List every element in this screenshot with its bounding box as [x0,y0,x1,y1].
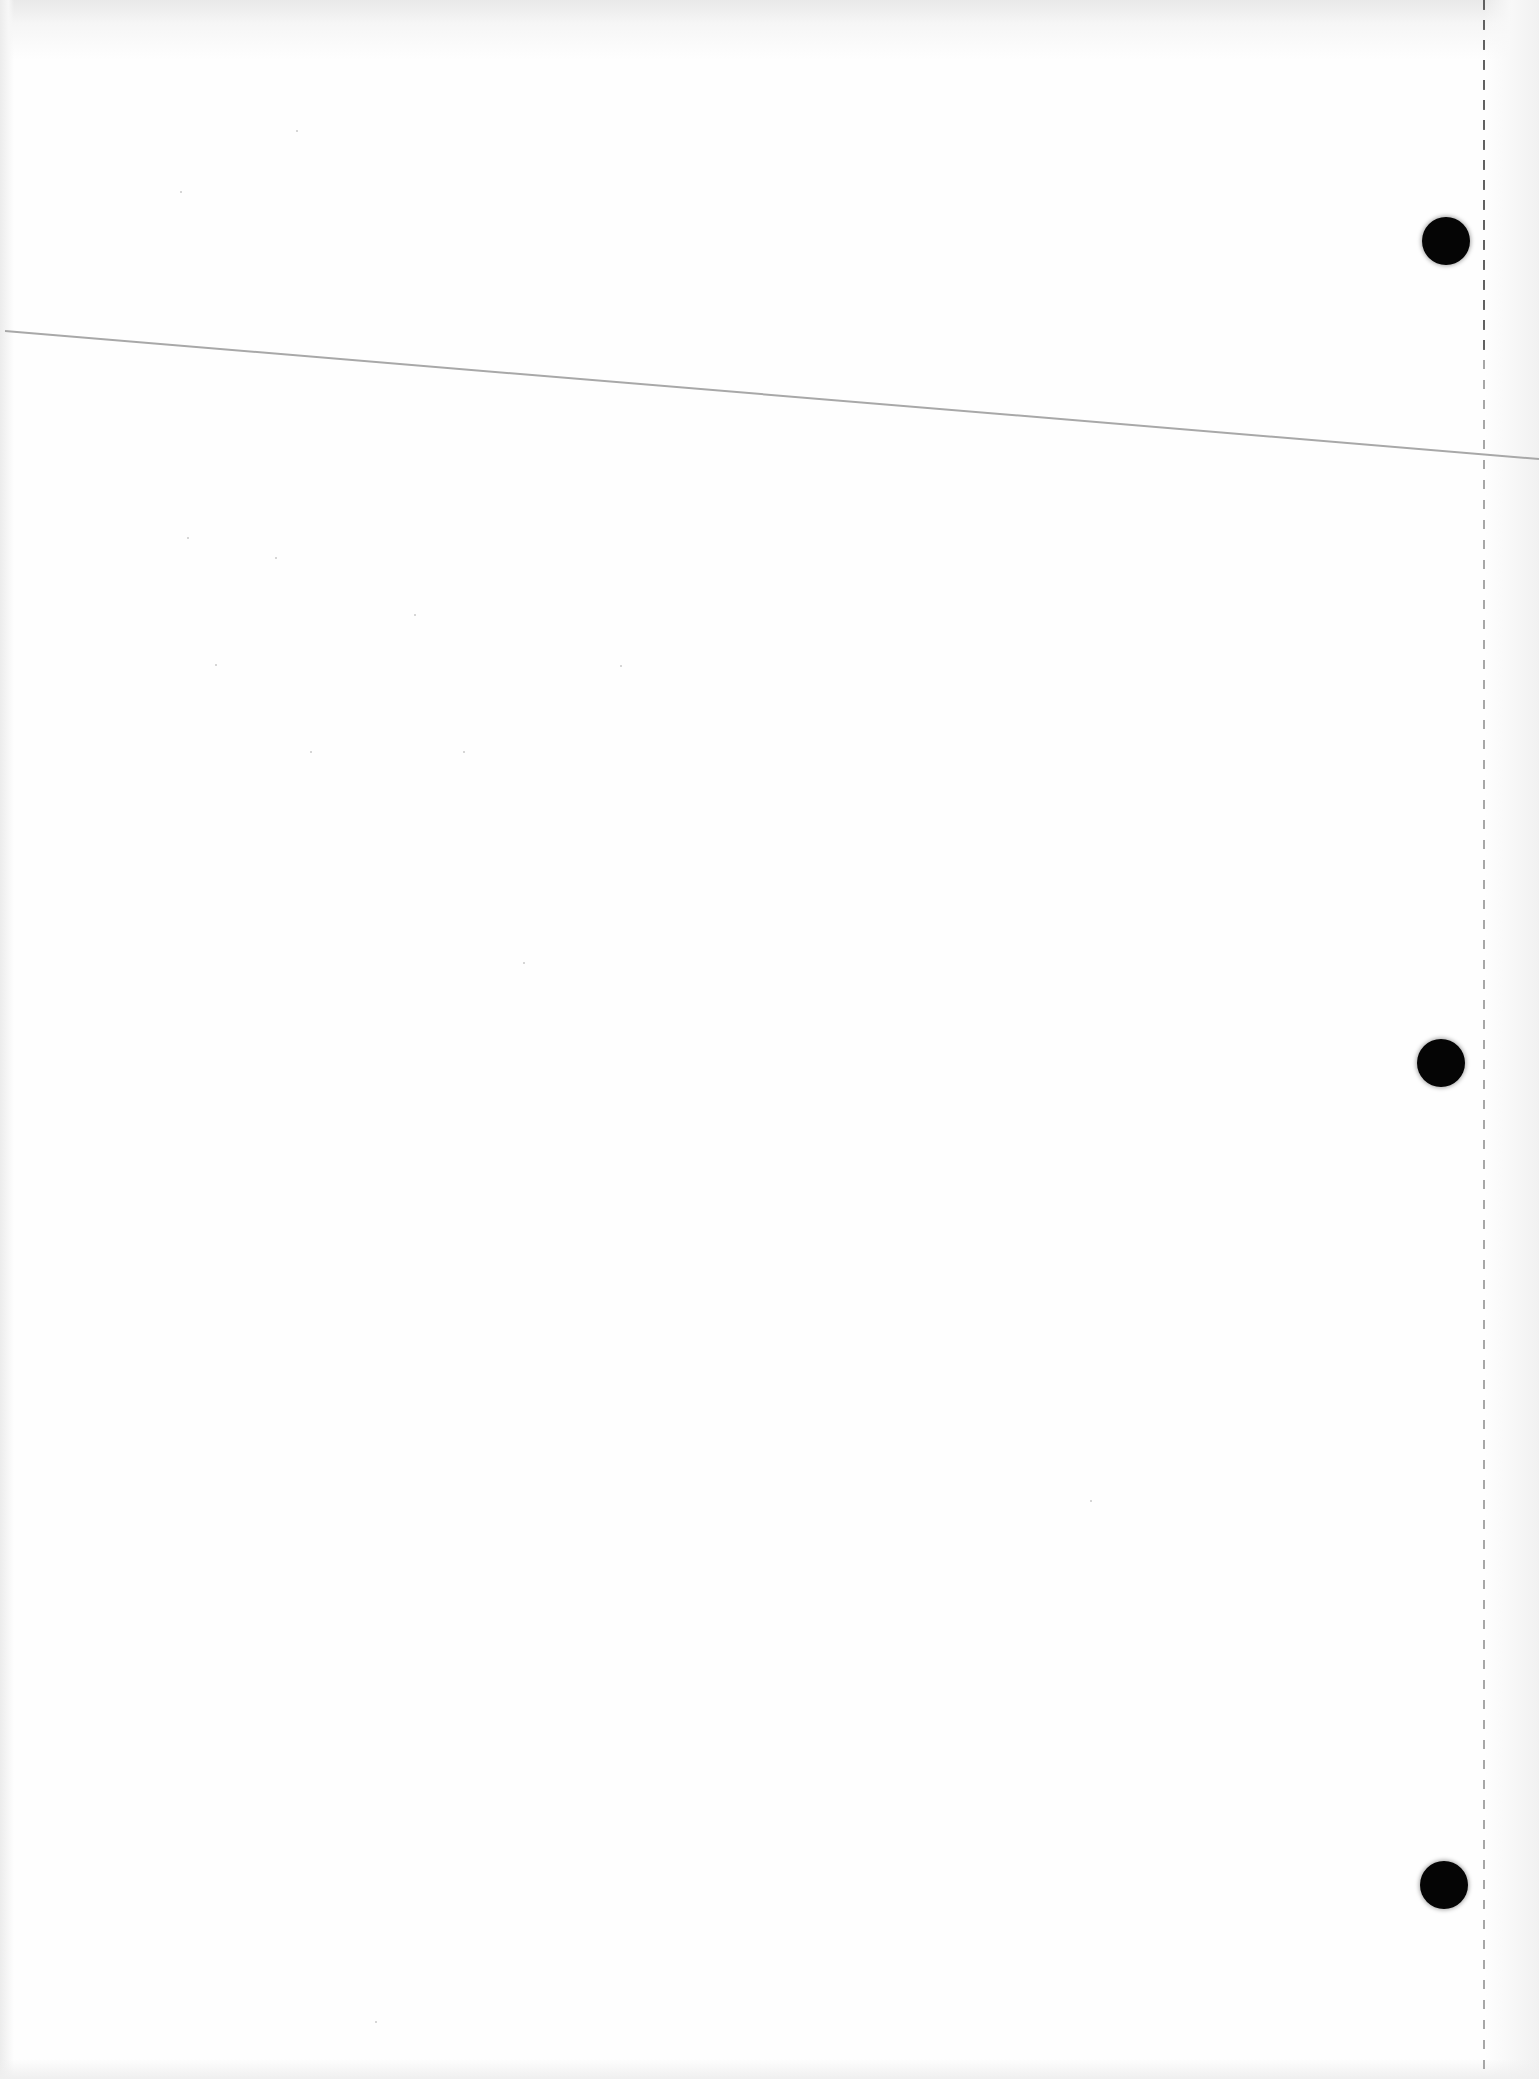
paper-speck [523,962,525,964]
paper-right-margin [1484,0,1539,2079]
paper-sheet [0,0,1539,2079]
diagonal-rule-line [0,0,1539,2079]
paper-speck [375,2021,377,2023]
paper-speck [310,751,312,753]
scan-bottom-shadow [0,2059,1539,2079]
paper-speck [187,537,189,539]
paper-speck [180,191,182,193]
punch-hole-icon [1420,1861,1468,1909]
paper-speck [463,751,465,753]
punch-hole-icon [1417,1039,1465,1087]
scan-top-shadow [0,0,1539,60]
punch-hole-icon [1422,217,1470,265]
scan-left-shadow [0,0,14,2079]
perforation-line-top-segment [1483,0,1485,360]
paper-speck [414,614,416,616]
paper-speck [1090,1500,1092,1502]
paper-speck [620,665,622,667]
paper-speck [296,130,298,132]
paper-speck [215,664,217,666]
paper-speck [275,557,277,559]
